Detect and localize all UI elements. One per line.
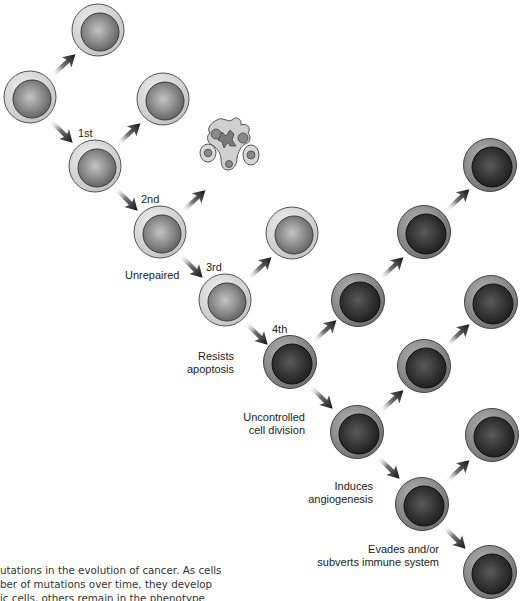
cell-mutated xyxy=(398,206,451,259)
cell-angiogenesis xyxy=(396,478,449,531)
label-3rd: 3rd xyxy=(206,261,222,273)
arrow-up-icon xyxy=(375,385,408,417)
arrow-up-icon xyxy=(441,184,474,216)
caption-line-2: ber of mutations over time, they develop xyxy=(0,577,300,591)
arrow-up-icon xyxy=(112,118,145,150)
figure-caption: utations in the evolution of cancer. As … xyxy=(0,563,300,601)
label-subverts-immune: subverts immune system xyxy=(317,556,439,568)
arrow-down-icon xyxy=(305,381,338,414)
label-uncontrolled: Uncontrolled xyxy=(243,411,305,423)
label-induces: Induces xyxy=(334,480,373,492)
labels: 1st 2nd 3rd 4th Unrepaired Resists apopt… xyxy=(78,127,439,568)
cell-mutated xyxy=(398,340,451,393)
caption-line-1: utations in the evolution of cancer. As … xyxy=(0,563,300,577)
arrow-up-icon xyxy=(177,185,210,217)
arrow-down-icon xyxy=(240,317,273,350)
cell-mutated xyxy=(465,276,518,329)
arrow-down-icon xyxy=(110,183,143,216)
apoptotic-cell-icon xyxy=(200,118,259,170)
arrow-up-icon xyxy=(243,252,276,284)
arrow-down-icon xyxy=(175,250,208,283)
label-angiogenesis: angiogenesis xyxy=(308,493,373,505)
cell-mutated xyxy=(332,274,385,327)
label-2nd: 2nd xyxy=(141,193,159,205)
arrow-up-icon xyxy=(375,252,408,284)
label-4th: 4th xyxy=(272,323,287,335)
cell-immune-evasion xyxy=(464,546,517,599)
label-evades: Evades and/or xyxy=(368,543,439,555)
label-cell-division: cell division xyxy=(249,424,305,436)
label-resists: Resists xyxy=(198,350,235,362)
arrow-up-icon xyxy=(441,319,474,351)
cell-1st-mutation xyxy=(69,140,121,192)
cell-4th-mutation xyxy=(264,336,317,389)
arrows xyxy=(45,49,474,554)
label-1st: 1st xyxy=(78,127,93,139)
cell-mutated xyxy=(466,409,519,462)
arrow-down-icon xyxy=(438,521,471,554)
cell-origin-daughter xyxy=(72,4,124,56)
cell-2nd-mutation xyxy=(134,206,186,258)
cell-1st-daughter xyxy=(137,73,189,125)
cancer-evolution-diagram: 1st 2nd 3rd 4th Unrepaired Resists apopt… xyxy=(0,0,524,601)
cell-mutated xyxy=(464,139,517,192)
arrow-up-icon xyxy=(47,49,80,81)
arrow-up-icon xyxy=(308,315,341,347)
arrow-down-icon xyxy=(372,451,405,484)
caption-line-3: ic cells, others remain in the phenotype xyxy=(0,591,300,601)
mutated-cells xyxy=(264,139,519,599)
arrow-up-icon xyxy=(441,455,474,487)
cell-uncontrolled-division xyxy=(331,406,384,459)
label-apoptosis: apoptosis xyxy=(187,363,235,375)
label-unrepaired: Unrepaired xyxy=(125,269,179,281)
arrow-down-icon xyxy=(45,115,78,148)
cell-3rd-daughter xyxy=(266,207,318,259)
cell-3rd-mutation xyxy=(199,274,251,326)
cell-origin xyxy=(4,71,56,123)
